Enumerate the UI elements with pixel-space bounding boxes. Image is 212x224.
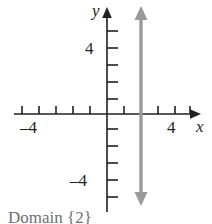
x-axis-label: x (196, 118, 204, 135)
figure-background (0, 0, 212, 224)
figure-caption: Domain {2} (8, 208, 92, 224)
x-tick-label-negative-4: –4 (20, 119, 37, 136)
y-tick-label-4: 4 (85, 40, 94, 57)
y-tick-label-negative-4: –4 (70, 172, 87, 189)
y-axis-label: y (92, 2, 100, 19)
coordinate-plane-figure (0, 0, 212, 224)
x-tick-label-4: 4 (167, 119, 176, 136)
